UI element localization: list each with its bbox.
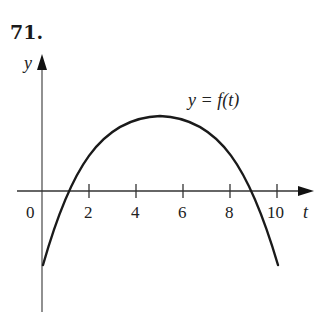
t-axis-label: t: [303, 202, 309, 222]
y-axis-arrow-icon: [37, 54, 47, 70]
function-graph: y t 0 2 4 6 8 10 y = f(t): [0, 0, 326, 312]
tick-label-10: 10: [267, 203, 284, 222]
y-axis-label: y: [22, 53, 32, 73]
origin-label: 0: [26, 203, 35, 222]
tick-label-4: 4: [131, 203, 140, 222]
tick-label-8: 8: [225, 203, 234, 222]
t-axis-arrow-icon: [298, 186, 314, 196]
tick-label-6: 6: [178, 203, 187, 222]
curve-label: y = f(t): [186, 90, 239, 111]
tick-label-2: 2: [84, 203, 93, 222]
